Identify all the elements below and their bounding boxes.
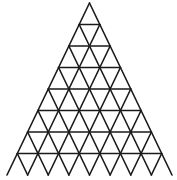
grid-lines bbox=[7, 3, 172, 175]
left-slant-line bbox=[151, 154, 161, 176]
right-slant-line bbox=[17, 154, 27, 176]
right-slant-line bbox=[79, 25, 151, 176]
right-slant-line bbox=[59, 68, 111, 176]
triangle-grid-diagram bbox=[0, 0, 177, 180]
left-slant-line bbox=[28, 25, 100, 176]
left-slant-line bbox=[69, 68, 121, 176]
